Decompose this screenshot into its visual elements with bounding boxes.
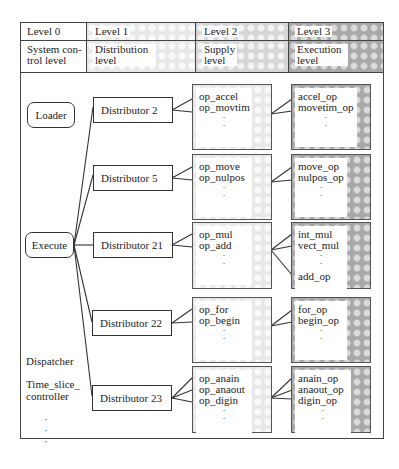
supply-box-distributor-22: op_for op_begin · · (192, 297, 272, 363)
distributor-22-box: Distributor 22 (92, 310, 172, 336)
distributor-23-box: Distributor 23 (92, 385, 172, 411)
supply-box-distributor-5: op_move op_nulpos · · (192, 154, 272, 220)
time-slice-controller-label: Time_slice_ controller (26, 378, 80, 402)
loader-box: Loader (27, 102, 75, 128)
dispatcher-label: Dispatcher (26, 355, 74, 367)
execution-op: add_op (298, 271, 344, 282)
distributor-5-box: Distributor 5 (93, 165, 173, 191)
distributor-2-box: Distributor 2 (93, 97, 173, 123)
execution-box-distributor-23: anain_op anaout_op digin_op · · (291, 366, 371, 433)
execution-box-distributor-5: move_op nulpos_op · · (291, 154, 371, 220)
more-items-ellipsis: · · · (41, 414, 51, 447)
distributor-21-box: Distributor 21 (93, 232, 173, 258)
supply-box-distributor-2: op_accel op_movtim · · (192, 84, 272, 150)
execution-box-distributor-2: accel_op movetim_op · · (291, 84, 371, 150)
supply-box-distributor-21: op_mul op_add · · (192, 222, 272, 289)
supply-box-distributor-23: op_anain op_anaout op_digin · · (192, 366, 272, 433)
execute-box: Execute (25, 232, 74, 258)
execution-box-distributor-21: int_mul vect_mul · · add_op (291, 222, 371, 289)
execution-box-distributor-22: for_op begin_op · · (291, 297, 371, 363)
